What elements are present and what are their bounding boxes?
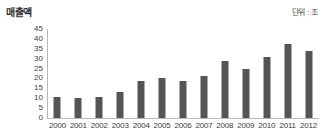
bar-slot	[68, 29, 88, 118]
y-tick-label: 25	[27, 65, 43, 73]
plot-area	[47, 29, 319, 119]
bar	[263, 57, 270, 118]
bar-slot	[257, 29, 277, 118]
bar-slot	[236, 29, 256, 118]
chart-axis-title: 매출액	[6, 4, 32, 19]
bar-slot	[131, 29, 151, 118]
bar-slot	[194, 29, 214, 118]
bar-slot	[89, 29, 109, 118]
bar-slot	[152, 29, 172, 118]
y-tick-label: 45	[27, 25, 43, 33]
bar-slot	[47, 29, 67, 118]
bar	[96, 97, 103, 118]
y-tick-label: 0	[27, 114, 43, 122]
y-tick-label: 5	[27, 104, 43, 112]
bar	[75, 98, 82, 118]
bar	[305, 51, 312, 118]
bar	[180, 81, 187, 118]
y-axis-tick-labels: 051015202530354045	[24, 29, 43, 119]
y-tick-label: 40	[27, 35, 43, 43]
bar	[221, 61, 228, 118]
bar	[159, 78, 166, 118]
bar	[284, 44, 291, 118]
bar-chart-figure: 매출액 단위 : 조 051015202530354045 2000200120…	[0, 0, 326, 140]
bar-slot	[173, 29, 193, 118]
bar	[242, 69, 249, 118]
y-tick-label: 15	[27, 84, 43, 92]
x-tick-label: 2012	[297, 121, 321, 131]
bar	[138, 81, 145, 118]
bar-slot	[299, 29, 319, 118]
bar	[200, 76, 207, 118]
bar-slot	[278, 29, 298, 118]
bar	[117, 92, 124, 118]
y-tick-label: 10	[27, 94, 43, 102]
bar	[54, 97, 61, 118]
bar-slot	[215, 29, 235, 118]
y-tick-label: 30	[27, 55, 43, 63]
bar-slot	[110, 29, 130, 118]
chart-unit-note: 단위 : 조	[292, 6, 318, 17]
bars-layer	[47, 29, 319, 118]
y-tick-label: 20	[27, 74, 43, 82]
y-tick-label: 35	[27, 45, 43, 53]
x-axis-line	[47, 118, 319, 119]
x-axis-tick-labels: 2000200120022003200420052006200720082009…	[47, 121, 319, 135]
